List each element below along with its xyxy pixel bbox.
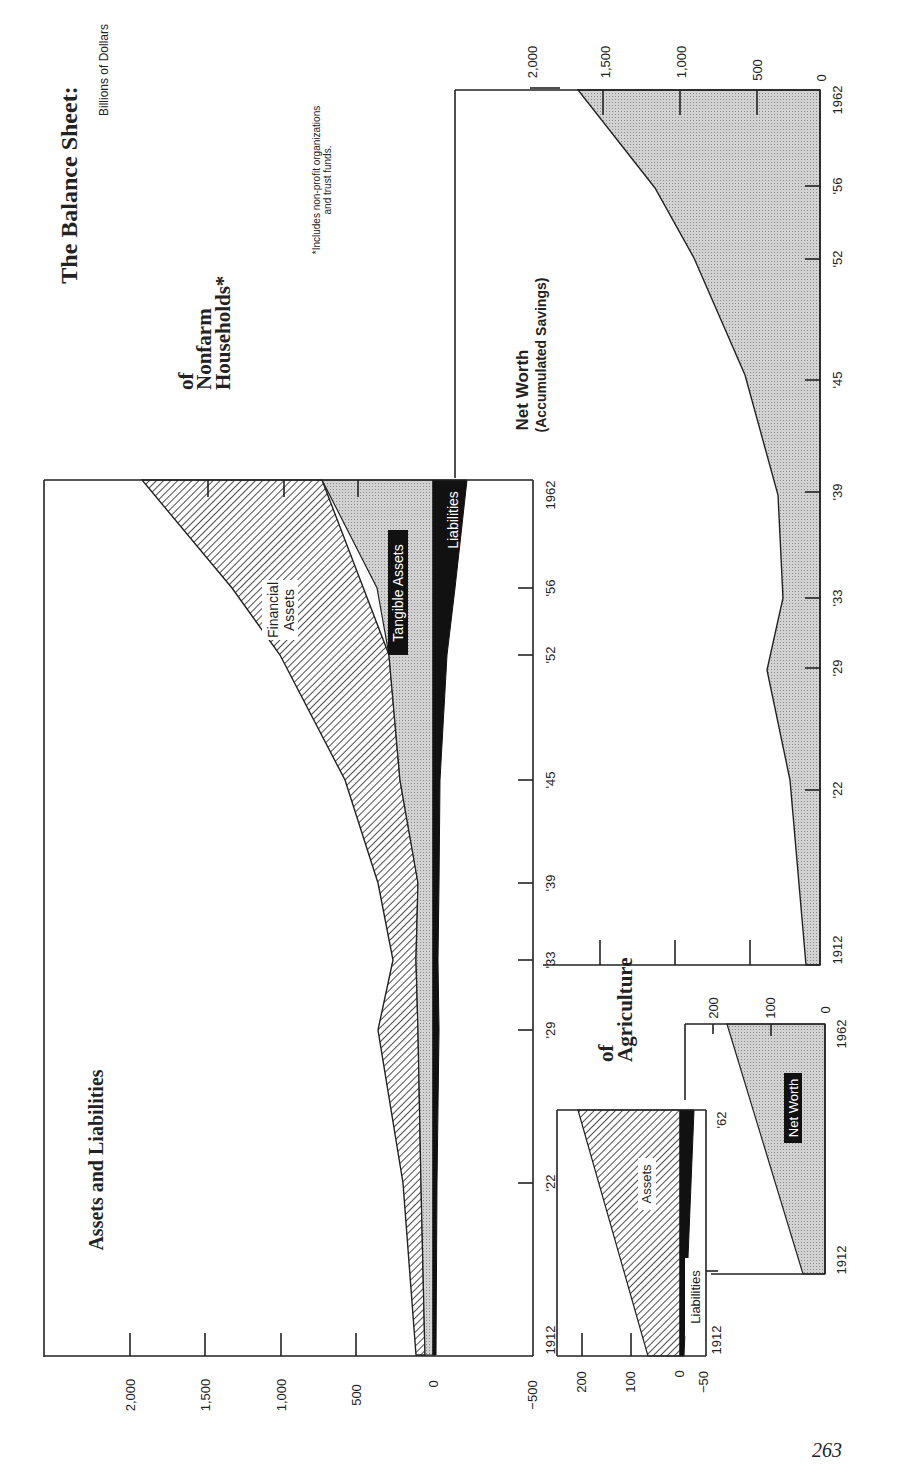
net-worth-subtitle: (Accumulated Savings) [533,278,549,433]
agnw-year-label: 1962 [834,1020,849,1049]
page-number: 263 [812,1439,842,1461]
main-value-label: 0 [426,1380,441,1387]
ag-value-label: 0 [672,1370,687,1377]
nw-year-label: '52 [830,251,845,268]
nw-year-label: '39 [830,484,845,501]
footnote: *Includes non-profit organizations [311,106,322,254]
liabilities-area [433,480,467,1355]
net-worth-area [578,90,820,965]
financial-assets-label: Financial [265,582,281,638]
main-value-label: 500 [349,1384,364,1406]
footnote: and trust funds. [322,146,333,215]
main-year-label: '33 [543,952,558,969]
nw-year-label: 1912 [830,936,845,965]
nw-value-label: 0 [814,74,829,81]
nw-year-label: 1962 [830,86,845,115]
liabilities-label: Liabilities [445,491,461,549]
financial-assets-label: Assets [281,589,297,631]
balance-sheet-figure: 2,000 1,500 1,000 500 0 −500 1912 '22 '2… [0,0,901,1470]
ag-value-label: 100 [623,1371,638,1393]
agnw-year-label: 1912 [834,1246,849,1275]
nw-value-label: 1,500 [598,46,613,79]
nw-year-label: '56 [830,178,845,195]
ag-year-label: 1912 [709,1326,724,1355]
nw-year-label: '22 [830,782,845,799]
ag-net-worth-area [727,1024,825,1274]
main-year-label: '52 [543,647,558,664]
agnw-value-label: 200 [706,997,721,1019]
nw-value-label: 2,000 [525,46,540,79]
net-worth-chart: 2,000 1,500 1,000 500 0 1912 '22 '29 '33… [455,46,845,965]
nw-year-label: '45 [830,372,845,389]
main-year-label: '29 [543,1022,558,1039]
tangible-assets-label: Tangible Assets [390,544,406,641]
assets-liabilities-chart: 2,000 1,500 1,000 500 0 −500 1912 '22 '2… [44,480,558,1411]
page-header: The Balance Sheet: Billions of Dollars o… [56,24,333,390]
main-value-label: 1,500 [198,1379,213,1412]
main-year-label: '39 [543,875,558,892]
main-value-label: 1,000 [274,1379,289,1412]
ag-liabilities-label: Liabilities [688,1270,703,1324]
main-year-label: '22 [543,1175,558,1192]
agnw-value-label: 100 [763,997,778,1019]
households-label: Households* [211,276,235,390]
main-year-label: '56 [543,580,558,597]
page-title: The Balance Sheet: [56,86,82,283]
agriculture-assets-chart: 200 100 0 −50 1912 '62 Assets Liabilitie… [557,957,729,1393]
main-value-label: 2,000 [123,1379,138,1412]
ag-assets-label: Assets [639,1164,654,1204]
agnw-value-label: 0 [818,1006,833,1013]
main-year-label: 1962 [543,481,558,510]
ag-year-label: '62 [714,1112,729,1129]
agriculture-label: Agriculture [613,957,637,1062]
agriculture-net-worth-chart: 200 100 0 1912 1962 Net Worth [685,997,849,1274]
nw-value-label: 1,000 [674,46,689,79]
main-value-label: −500 [525,1380,540,1409]
ag-assets-area [578,1110,680,1356]
ag-value-label: 200 [574,1371,589,1393]
nw-year-label: '33 [830,590,845,607]
ag-net-worth-label: Net Worth [786,1079,801,1137]
main-year-label: '45 [543,772,558,789]
assets-liabilities-title: Assets and Liabilities [85,1069,107,1250]
main-year-label: 1912 [543,1326,558,1355]
page-subtitle: Billions of Dollars [97,24,111,116]
nw-year-label: '29 [830,660,845,677]
nw-value-label: 500 [750,59,765,81]
net-worth-title: Net Worth [513,350,532,431]
ag-value-label: −50 [696,1371,711,1393]
